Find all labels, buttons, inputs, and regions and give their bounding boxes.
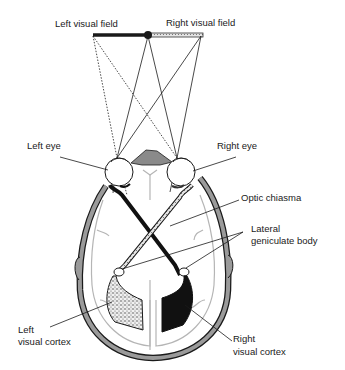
left-eye-label: Left eye <box>27 140 61 152</box>
skull-outline <box>75 178 233 358</box>
right-visual-cortex-label-line1: Right <box>233 333 255 345</box>
right-eye-label: Right eye <box>217 140 257 152</box>
optic-pathways <box>110 184 192 275</box>
left-visual-cortex-label-line1: Left <box>18 324 34 336</box>
left-visual-cortex-label-line2: visual cortex <box>18 336 71 348</box>
nose <box>131 150 172 165</box>
visual-pathway-diagram <box>0 0 345 370</box>
left-eye <box>105 158 133 186</box>
left-visual-field-label: Left visual field <box>55 18 118 30</box>
brain-outline <box>91 170 214 350</box>
visual-field-bar <box>93 31 203 39</box>
right-eye <box>167 158 195 186</box>
right-visual-field-label: Right visual field <box>166 17 235 29</box>
right-visual-cortex <box>162 276 193 332</box>
lateral-geniculate-body-label-line2: geniculate body <box>251 235 318 247</box>
right-lateral-geniculate-body <box>179 268 189 276</box>
lateral-geniculate-body-label-line1: Lateral <box>251 223 280 235</box>
left-visual-cortex <box>107 276 143 330</box>
fixation-point <box>144 31 152 39</box>
optic-chiasma-label: Optic chiasma <box>241 192 301 204</box>
right-visual-cortex-label-line2: visual cortex <box>233 346 286 358</box>
